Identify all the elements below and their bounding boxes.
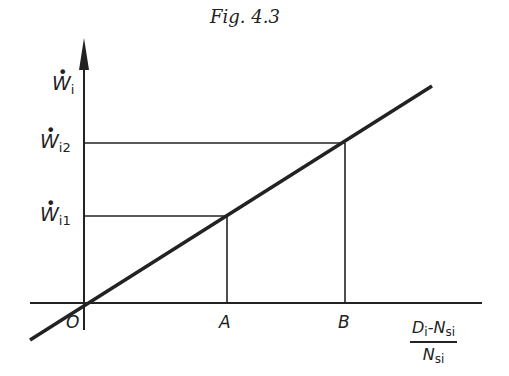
x-axis-label-numerator: Di-Nsi: [410, 318, 457, 343]
x-tick-label-b: B: [338, 312, 350, 332]
origin-label: O: [66, 312, 79, 332]
x-tick-label-a: A: [219, 312, 231, 332]
x-axis-label: Di-Nsi Nsi: [410, 318, 457, 366]
relation-line: [30, 86, 432, 340]
y-tick-label-wi2: • Wi2: [40, 130, 71, 155]
figure-title: Fig. 4.3: [210, 6, 280, 27]
y-tick-label-wi1: • Wi1: [40, 203, 71, 228]
y-axis-label: • Wi: [52, 72, 74, 97]
y-axis-arrow-icon: [79, 38, 89, 70]
x-axis-label-denominator: Nsi: [410, 343, 457, 366]
